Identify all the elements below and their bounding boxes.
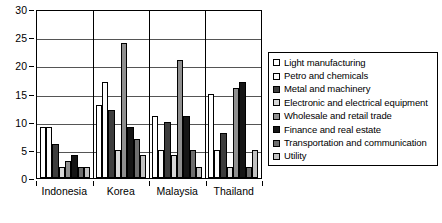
bar-group-bars xyxy=(96,11,146,178)
legend-item: Electronic and electrical equipment xyxy=(273,96,435,109)
y-axis-tick-label: 20 xyxy=(15,61,27,71)
bar-group-bars xyxy=(152,11,202,178)
x-axis-tick-mark xyxy=(262,181,263,186)
y-axis-tick-mark xyxy=(29,66,34,67)
y-axis: 302520151050 xyxy=(0,10,34,179)
plot-area xyxy=(36,10,262,179)
legend-swatch-icon xyxy=(273,126,280,133)
legend-item-label: Electronic and electrical equipment xyxy=(284,98,428,108)
legend-item: Metal and machinery xyxy=(273,83,435,96)
legend-item: Finance and real estate xyxy=(273,123,435,136)
legend-item-label: Metal and machinery xyxy=(284,84,370,94)
bar xyxy=(252,150,258,178)
legend: Light manufacturingPetro and chemicalsMe… xyxy=(268,52,438,166)
legend-swatch-icon xyxy=(273,86,280,93)
legend-item: Transportation and communication xyxy=(273,136,435,149)
legend-item: Petro and chemicals xyxy=(273,69,435,82)
x-axis-tick-label: Malaysia xyxy=(149,181,206,203)
x-axis-tick-mark xyxy=(206,181,207,186)
x-axis-tick-mark xyxy=(93,181,94,186)
bar xyxy=(140,155,146,178)
bar-groups xyxy=(37,11,261,178)
bar xyxy=(239,82,245,178)
legend-swatch-icon xyxy=(273,59,280,66)
legend-swatch-icon xyxy=(273,153,280,160)
legend-item-label: Light manufacturing xyxy=(284,58,366,68)
bar-group xyxy=(37,11,93,178)
x-axis-tick-label: Thailand xyxy=(206,181,263,203)
legend-item-label: Petro and chemicals xyxy=(284,71,368,81)
legend-item-label: Transportation and communication xyxy=(284,138,427,148)
y-axis-tick-label: 5 xyxy=(21,146,27,156)
legend-swatch-icon xyxy=(273,73,280,80)
bar xyxy=(84,167,90,178)
bar-group xyxy=(205,11,261,178)
y-axis-tick-mark xyxy=(29,179,34,180)
y-axis-tick-label: 10 xyxy=(15,118,27,128)
legend-item: Utility xyxy=(273,150,435,163)
bar-group xyxy=(93,11,149,178)
legend-item: Wholesale and retail trade xyxy=(273,110,435,123)
legend-item-label: Finance and real estate xyxy=(284,125,381,135)
x-axis-tick-mark xyxy=(149,181,150,186)
y-axis-tick-label: 25 xyxy=(15,33,27,43)
bar-group-bars xyxy=(40,11,90,178)
bar xyxy=(196,167,202,178)
legend-swatch-icon xyxy=(273,140,280,147)
y-axis-tick-label: 30 xyxy=(15,5,27,15)
bar-group-bars xyxy=(208,11,258,178)
legend-item-label: Utility xyxy=(284,151,307,161)
bar-chart: 302520151050 IndonesiaKoreaMalaysiaThail… xyxy=(0,0,442,223)
y-axis-tick-mark xyxy=(29,123,34,124)
y-axis-tick-label: 15 xyxy=(15,90,27,100)
y-axis-tick-mark xyxy=(29,95,34,96)
legend-item: Light manufacturing xyxy=(273,56,435,69)
x-axis-tick-mark xyxy=(36,181,37,186)
y-axis-tick-mark xyxy=(29,10,34,11)
bar-group xyxy=(149,11,205,178)
y-axis-tick-mark xyxy=(29,38,34,39)
x-axis-tick-label: Indonesia xyxy=(36,181,93,203)
x-axis-tick-label: Korea xyxy=(93,181,150,203)
legend-item-label: Wholesale and retail trade xyxy=(284,111,392,121)
y-axis-tick-label: 0 xyxy=(21,174,27,184)
legend-swatch-icon xyxy=(273,99,280,106)
x-axis: IndonesiaKoreaMalaysiaThailand xyxy=(36,181,262,203)
y-axis-tick-mark xyxy=(29,151,34,152)
legend-swatch-icon xyxy=(273,113,280,120)
